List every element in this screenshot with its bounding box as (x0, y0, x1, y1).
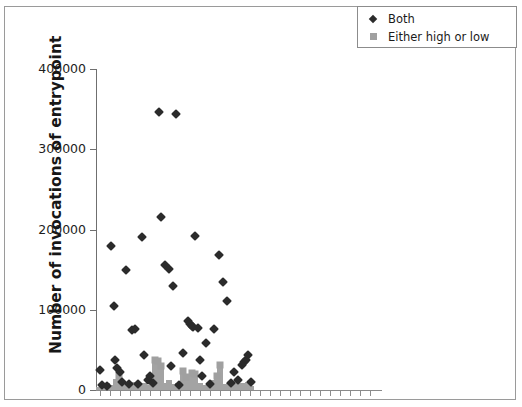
diamond-icon (358, 16, 388, 22)
x-axis-tick (340, 391, 341, 396)
x-axis-tick (300, 391, 301, 396)
data-point-both (209, 324, 219, 334)
data-point-both (156, 213, 166, 223)
x-axis-tick (170, 391, 171, 396)
x-axis-tick (180, 391, 181, 396)
data-point-both (201, 339, 211, 349)
data-point-both (195, 355, 205, 365)
x-axis-tick (160, 391, 161, 396)
x-axis-tick (150, 391, 151, 396)
square-icon (358, 33, 388, 40)
x-axis-tick (360, 391, 361, 396)
y-axis-tick (90, 390, 96, 391)
x-axis-tick (100, 391, 101, 396)
chart-legend: Both Either high or low (357, 6, 517, 48)
x-axis-tick (210, 391, 211, 396)
plot-area (96, 69, 378, 390)
x-axis-tick (200, 391, 201, 396)
x-axis-tick (230, 391, 231, 396)
data-point-both (197, 371, 207, 381)
data-point-both (139, 351, 149, 361)
x-axis-tick (190, 391, 191, 396)
data-point-both (190, 231, 200, 241)
legend-label-either: Either high or low (388, 30, 490, 44)
data-point-both (168, 282, 178, 292)
data-point-both (178, 348, 188, 358)
x-axis-tick (220, 391, 221, 396)
x-axis-tick (110, 391, 111, 396)
legend-label-both: Both (388, 12, 415, 26)
data-point-both (121, 265, 131, 275)
x-axis-tick (120, 391, 121, 396)
data-point-both (109, 301, 119, 311)
data-point-both (106, 241, 116, 251)
x-axis-tick (140, 391, 141, 396)
data-point-both (154, 107, 164, 117)
data-point-both (214, 250, 224, 260)
x-axis-tick (330, 391, 331, 396)
x-axis-tick (290, 391, 291, 396)
x-axis-tick (350, 391, 351, 396)
x-axis-tick (370, 391, 371, 396)
x-axis-tick (270, 391, 271, 396)
y-axis-title: Number of invocations of entrypoint (47, 54, 65, 354)
data-point-both (171, 109, 181, 119)
data-point-both (222, 296, 232, 306)
x-axis-tick (250, 391, 251, 396)
data-point-either (157, 362, 164, 369)
data-point-both (166, 361, 176, 371)
data-point-both (95, 365, 105, 375)
data-point-either (217, 362, 224, 369)
x-axis-tick (280, 391, 281, 396)
chart-figure: 0100000200000300000400000 Number of invo… (0, 0, 522, 407)
x-axis-tick (240, 391, 241, 396)
x-axis-tick (310, 391, 311, 396)
y-axis-tick-label: 0 (20, 382, 86, 397)
x-axis-tick (260, 391, 261, 396)
data-point-both (218, 277, 228, 287)
legend-item-both: Both (358, 9, 415, 28)
x-axis-tick (130, 391, 131, 396)
x-axis-tick (320, 391, 321, 396)
data-point-both (137, 232, 147, 242)
legend-item-either-high-or-low: Either high or low (358, 27, 490, 46)
data-point-either (214, 372, 221, 379)
